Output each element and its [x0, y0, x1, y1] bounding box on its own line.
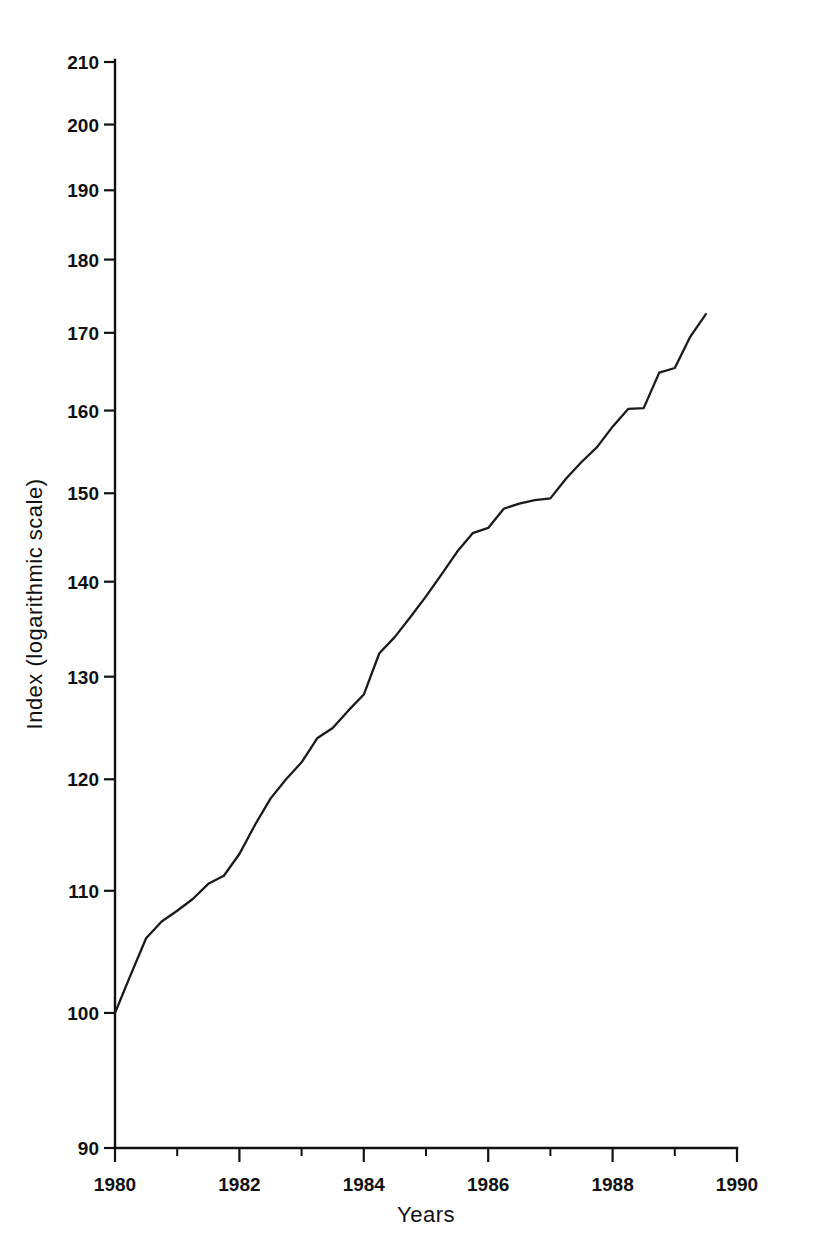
x-axis-tick-label: 1986	[467, 1174, 509, 1195]
y-axis-tick-label: 180	[67, 250, 99, 271]
y-axis-tick-label: 90	[78, 1138, 99, 1159]
y-axis-tick-label: 170	[67, 323, 99, 344]
y-axis-tick-label: 100	[67, 1003, 99, 1024]
chart-figure: 90100110120130140150160170180190200210 1…	[0, 0, 815, 1250]
y-axis-tick-label: 160	[67, 401, 99, 422]
line-chart-canvas: 90100110120130140150160170180190200210 1…	[0, 0, 815, 1250]
y-axis-tick-label: 190	[67, 180, 99, 201]
y-axis-title: Index (logarithmic scale)	[22, 479, 47, 730]
y-axis-tick-label: 120	[67, 769, 99, 790]
x-axis-tick-label: 1984	[343, 1174, 386, 1195]
x-axis-tick-label: 1990	[716, 1174, 758, 1195]
x-axis-tick-label: 1980	[94, 1174, 136, 1195]
x-axis-title: Years	[397, 1202, 455, 1227]
y-axis-tick-label: 130	[67, 667, 99, 688]
x-axis-tick-label: 1988	[591, 1174, 633, 1195]
y-axis-tick-label: 210	[67, 52, 99, 73]
figure-background	[0, 0, 815, 1250]
y-axis-tick-label: 200	[67, 115, 99, 136]
y-axis-tick-label: 110	[68, 881, 99, 902]
x-axis-tick-label: 1982	[218, 1174, 260, 1195]
y-axis-tick-label: 140	[67, 572, 99, 593]
y-axis-tick-label: 150	[67, 483, 99, 504]
